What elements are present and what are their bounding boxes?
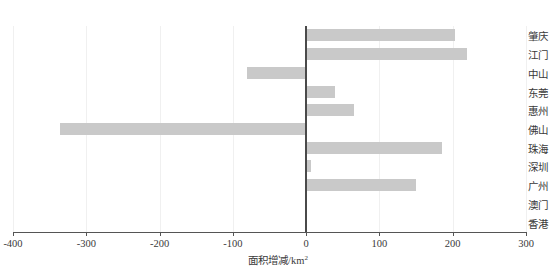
bar-row <box>13 63 526 82</box>
x-axis-tick-label: 0 <box>304 238 309 249</box>
bar <box>306 179 416 191</box>
bar-row <box>13 195 526 214</box>
x-axis-tick-label: -200 <box>150 238 169 249</box>
x-axis-tick <box>86 232 87 236</box>
bar <box>306 142 442 154</box>
plot-area <box>13 26 526 232</box>
horizontal-bar-chart: -400-300-200-1000100200300 面积增减/km2 肇庆江门… <box>0 0 556 271</box>
x-axis-tick <box>13 232 14 236</box>
category-label: 珠海 <box>528 140 549 155</box>
bar-row <box>13 45 526 64</box>
x-axis-tick-label: -400 <box>3 238 22 249</box>
category-label: 佛山 <box>528 122 549 137</box>
category-label: 东莞 <box>528 84 549 99</box>
bar-row <box>13 176 526 195</box>
category-label: 肇庆 <box>528 28 549 43</box>
bar-row <box>13 138 526 157</box>
category-label: 香港 <box>528 215 549 230</box>
zero-reference-line <box>305 26 307 232</box>
category-label: 惠州 <box>528 103 549 118</box>
bar <box>306 104 354 116</box>
x-axis-tick-label: -300 <box>77 238 96 249</box>
bar-row <box>13 213 526 232</box>
category-axis-labels: 肇庆江门中山东莞惠州佛山珠海深圳广州澳门香港 <box>524 26 556 232</box>
bar-row <box>13 82 526 101</box>
bar <box>247 67 306 79</box>
bar-row <box>13 101 526 120</box>
x-axis-tick-label: 300 <box>518 238 534 249</box>
x-axis-tick-label: 100 <box>372 238 388 249</box>
x-axis-tick <box>233 232 234 236</box>
bar <box>306 86 335 98</box>
x-axis-title: 面积增减/km2 <box>0 252 556 267</box>
category-label: 澳门 <box>528 196 549 211</box>
x-axis-tick-label: -100 <box>223 238 242 249</box>
x-axis-tick <box>453 232 454 236</box>
bar-series <box>13 26 526 232</box>
x-axis-title-text: 面积增减/km <box>248 255 304 266</box>
bar-row <box>13 157 526 176</box>
x-axis-title-superscript: 2 <box>304 254 308 262</box>
bar <box>306 29 455 41</box>
x-axis-tick <box>160 232 161 236</box>
x-axis-line <box>13 232 526 233</box>
category-label: 江门 <box>528 47 549 62</box>
x-axis-tick <box>306 232 307 236</box>
x-axis-tick-label: 200 <box>445 238 461 249</box>
bar-row <box>13 120 526 139</box>
category-label: 深圳 <box>528 159 549 174</box>
bar <box>306 48 467 60</box>
bar-row <box>13 26 526 45</box>
x-axis-tick <box>379 232 380 236</box>
category-label: 中山 <box>528 65 549 80</box>
category-label: 广州 <box>528 178 549 193</box>
bar <box>60 123 306 135</box>
x-axis-tick <box>526 232 527 236</box>
